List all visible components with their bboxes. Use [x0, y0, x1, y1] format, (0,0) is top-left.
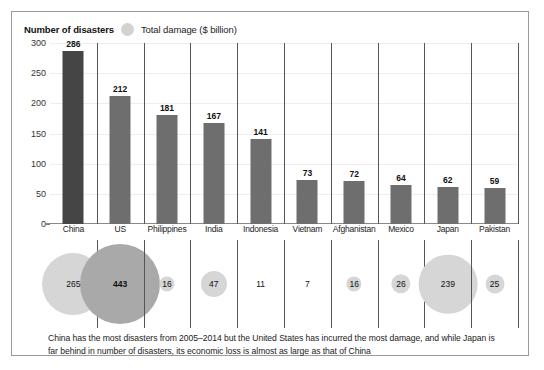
bar[interactable]	[63, 51, 84, 224]
plot-area: 050100150200250300 286212181167141737264…	[24, 43, 518, 235]
bubble-value-label: 239	[441, 279, 455, 289]
bar-column[interactable]: 64	[378, 43, 425, 224]
bar-column[interactable]: 286	[50, 43, 97, 224]
bubble-cell[interactable]: 16	[331, 240, 378, 328]
bar-value-label: 286	[66, 39, 80, 49]
bars-region: 2862121811671417372646259	[50, 43, 518, 235]
bar[interactable]	[390, 185, 411, 224]
bar-column[interactable]: 212	[97, 43, 144, 224]
category-label-india: India	[190, 224, 237, 234]
bar-value-label: 141	[253, 127, 267, 137]
category-label-china: China	[50, 224, 97, 234]
bubble-cell[interactable]: 443	[97, 240, 144, 328]
category-label-pakistan: Pakistan	[471, 224, 518, 234]
caption-divider	[24, 328, 518, 329]
column-separator	[378, 43, 379, 224]
bar-column[interactable]: 167	[190, 43, 237, 224]
bubble-value-label: 26	[396, 279, 405, 289]
bubble-value-label: 47	[209, 279, 218, 289]
chart-caption: China has the most disasters from 2005–2…	[48, 332, 500, 357]
chart-legend: Number of disasters Total damage ($ bill…	[24, 21, 237, 37]
category-label-mexico: Mexico	[378, 224, 425, 234]
column-separator	[190, 43, 191, 224]
bar[interactable]	[484, 188, 505, 224]
column-separator	[284, 240, 285, 328]
y-axis-tick-label: 200	[31, 98, 46, 108]
column-separator	[237, 43, 238, 224]
column-separator	[378, 240, 379, 328]
bubble-cell[interactable]: 16	[144, 240, 191, 328]
bubble-cell[interactable]: 11	[237, 240, 284, 328]
bar[interactable]	[110, 96, 131, 224]
column-separator	[190, 240, 191, 328]
column-separator	[331, 43, 332, 224]
column-separator	[237, 240, 238, 328]
bubble-value-label: 25	[490, 279, 499, 289]
y-axis: 050100150200250300	[24, 43, 50, 235]
category-label-indonesia: Indonesia	[237, 224, 284, 234]
bar-column[interactable]: 73	[284, 43, 331, 224]
bubble-value-label: 265	[66, 279, 80, 289]
bubble-cell[interactable]: 25	[471, 240, 518, 328]
bar-column[interactable]: 141	[237, 43, 284, 224]
column-separator	[97, 43, 98, 224]
column-separator	[144, 240, 145, 328]
circle-icon	[121, 23, 134, 36]
bar-column[interactable]: 62	[424, 43, 471, 224]
y-axis-tick-label: 250	[31, 68, 46, 78]
chart-figure: Number of disasters Total damage ($ bill…	[11, 11, 529, 356]
legend-item-damage-label: Total damage ($ billion)	[141, 24, 237, 35]
bar[interactable]	[437, 187, 458, 224]
bar-value-label: 72	[349, 169, 358, 179]
bar[interactable]	[297, 180, 318, 224]
bar-value-label: 59	[490, 176, 499, 186]
bar[interactable]	[344, 181, 365, 224]
column-separator	[518, 240, 519, 328]
y-axis-tick-label: 100	[31, 159, 46, 169]
bar-column[interactable]: 181	[144, 43, 191, 224]
bar[interactable]	[156, 115, 177, 224]
column-separator	[331, 240, 332, 328]
y-axis-tick-label: 150	[31, 129, 46, 139]
bubble-value-label: 16	[349, 279, 358, 289]
y-axis-tick-label: 50	[36, 189, 46, 199]
bar-value-label: 212	[113, 84, 127, 94]
bar[interactable]	[250, 139, 271, 224]
bar-value-label: 167	[207, 111, 221, 121]
bubble-value-label: 443	[113, 279, 127, 289]
column-separator	[424, 43, 425, 224]
bubble-value-label: 11	[256, 279, 265, 289]
bar-value-label: 62	[443, 175, 452, 185]
category-label-vietnam: Vietnam	[284, 224, 331, 234]
bubble-value-label: 7	[305, 279, 310, 289]
category-label-philippines: Philippines	[144, 224, 191, 234]
column-separator	[284, 43, 285, 224]
category-labels: ChinaUSPhilippinesIndiaIndonesiaVietnamA…	[50, 224, 518, 240]
bubble-row: 2654431647117162623925	[50, 240, 518, 328]
bar-value-label: 64	[396, 173, 405, 183]
bar-value-label: 181	[160, 103, 174, 113]
column-separator	[518, 43, 519, 224]
category-label-afghanistan: Afghanistan	[331, 224, 378, 234]
category-label-us: US	[97, 224, 144, 234]
category-label-japan: Japan	[424, 224, 471, 234]
bar-column[interactable]: 59	[471, 43, 518, 224]
bubble-cell[interactable]: 239	[424, 240, 471, 328]
column-separator	[471, 43, 472, 224]
legend-item-disasters-label: Number of disasters	[24, 24, 114, 35]
column-separator	[471, 240, 472, 328]
bar-value-label: 73	[303, 168, 312, 178]
y-axis-tick-label: 300	[31, 38, 46, 48]
bar[interactable]	[203, 123, 224, 224]
bubble-cell[interactable]: 26	[378, 240, 425, 328]
bar-column[interactable]: 72	[331, 43, 378, 224]
bubble-cell[interactable]: 47	[190, 240, 237, 328]
bubble-cell[interactable]: 7	[284, 240, 331, 328]
column-separator	[144, 43, 145, 224]
bubble-value-label: 16	[162, 279, 171, 289]
